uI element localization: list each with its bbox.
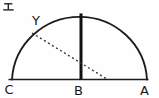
semicircle-diagram: Y C B A xyxy=(0,0,159,98)
dashed-chord-from-Y xyxy=(32,33,107,79)
label-point-A: A xyxy=(140,83,149,98)
figure-container: Y C B A xyxy=(0,0,159,98)
label-point-C: C xyxy=(4,82,13,97)
option-label-katakana-e xyxy=(3,4,13,10)
label-point-Y: Y xyxy=(31,13,40,28)
label-point-B: B xyxy=(74,83,83,98)
